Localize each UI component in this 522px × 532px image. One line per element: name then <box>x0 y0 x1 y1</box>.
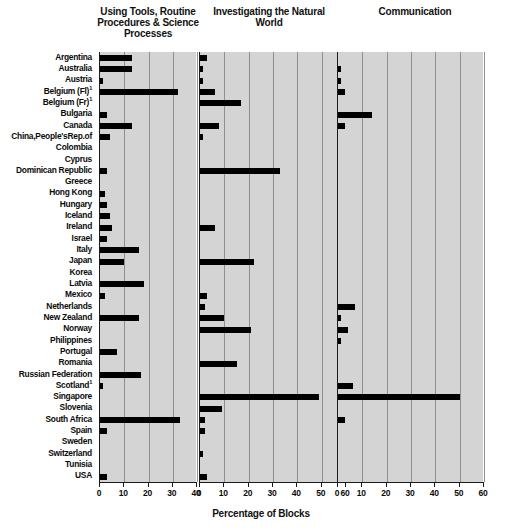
bar <box>338 304 355 310</box>
bar <box>100 474 107 480</box>
country-label: Latvia <box>69 279 92 288</box>
bar <box>338 66 341 72</box>
bar <box>100 66 132 72</box>
plot-panel-using-tools <box>99 52 196 482</box>
axis-tick <box>148 482 149 487</box>
bar <box>338 383 353 389</box>
panel-title-communication: Communication <box>352 6 478 17</box>
x-axis-communication: 0102030405060 <box>337 482 483 508</box>
bar <box>200 304 205 310</box>
axis-tick <box>337 482 338 487</box>
country-label: Belgium (Fl)1 <box>44 87 92 96</box>
bar <box>100 417 180 423</box>
bar <box>200 474 207 480</box>
bar <box>100 383 103 389</box>
bar <box>100 236 107 242</box>
axis-tick-label: 30 <box>405 488 414 498</box>
bar <box>100 123 132 129</box>
bar <box>338 112 372 118</box>
axis-tick-label: 0 <box>97 488 102 498</box>
axis-tick <box>172 482 173 487</box>
bar <box>200 293 207 299</box>
science-content-category-chart: Using Tools, Routine Procedures & Scienc… <box>0 0 522 532</box>
bar <box>200 406 222 412</box>
axis-tick <box>199 482 200 487</box>
country-label: China,People'sRep.of <box>11 132 92 141</box>
bar <box>338 338 341 344</box>
country-label: Singapore <box>53 392 92 401</box>
bar <box>100 134 110 140</box>
axis-tick <box>361 482 362 487</box>
bar <box>200 394 319 400</box>
axis-tick-label: 0 <box>197 488 202 498</box>
x-axis-title: Percentage of Blocks <box>0 508 522 519</box>
axis-tick-label: 20 <box>243 488 252 498</box>
country-label: Greece <box>65 177 92 186</box>
country-label: Ireland <box>66 222 92 231</box>
country-label: Argentina <box>55 53 92 62</box>
bar <box>200 259 254 265</box>
axis-tick <box>248 482 249 487</box>
country-label: South Africa <box>46 415 92 424</box>
gridline <box>197 52 198 482</box>
bar <box>100 428 107 434</box>
bar <box>100 315 139 321</box>
bar <box>200 361 237 367</box>
country-label: Hong Kong <box>49 188 92 197</box>
country-label: USA <box>75 471 92 480</box>
country-label: Philippines <box>50 336 92 345</box>
bar <box>100 213 110 219</box>
country-label: Tunisia <box>65 460 92 469</box>
country-label: Russian Federation <box>19 370 92 379</box>
axis-tick-label: 50 <box>454 488 463 498</box>
bar <box>100 293 105 299</box>
bar <box>100 55 132 61</box>
bar <box>200 225 215 231</box>
bar <box>100 112 107 118</box>
axis-tick-label: 10 <box>119 488 128 498</box>
bar <box>200 78 203 84</box>
bar <box>338 327 348 333</box>
axis-tick-label: 40 <box>430 488 439 498</box>
country-label: Bulgaria <box>60 109 92 118</box>
country-label: Spain <box>70 426 92 435</box>
panel-title-using-tools: Using Tools, Routine Procedures & Scienc… <box>92 6 204 39</box>
axis-tick-label: 60 <box>478 488 487 498</box>
bar <box>100 202 107 208</box>
bar <box>200 315 224 321</box>
bar <box>200 451 203 457</box>
country-label: Austria <box>65 75 92 84</box>
bar <box>200 100 241 106</box>
country-label-column: ArgentinaAustraliaAustriaBelgium (Fl)1Be… <box>0 52 94 482</box>
country-label: Belgium (Fr)1 <box>43 98 92 107</box>
country-label: Norway <box>63 324 92 333</box>
country-label: Korea <box>70 268 93 277</box>
axis-tick <box>123 482 124 487</box>
axis-tick <box>99 482 100 487</box>
bar <box>338 394 460 400</box>
bar <box>200 55 207 61</box>
bar <box>200 417 205 423</box>
country-label: Hungary <box>60 200 92 209</box>
axis-tick-label: 50 <box>316 488 325 498</box>
bar <box>200 428 205 434</box>
country-label: Canada <box>63 121 92 130</box>
bar <box>100 78 103 84</box>
bar <box>100 225 112 231</box>
country-label: Japan <box>69 256 92 265</box>
country-label: New Zealand <box>44 313 92 322</box>
country-label: Iceland <box>65 211 92 220</box>
country-label: Mexico <box>65 290 92 299</box>
country-label: Australia <box>58 64 92 73</box>
country-label: Sweden <box>62 437 92 446</box>
bar <box>338 417 345 423</box>
bar <box>100 191 105 197</box>
axis-tick-label: 30 <box>267 488 276 498</box>
bar <box>338 315 341 321</box>
axis-tick-label: 40 <box>292 488 301 498</box>
axis-tick-label: 10 <box>357 488 366 498</box>
bar <box>200 168 280 174</box>
country-label: Netherlands <box>46 302 92 311</box>
bar <box>100 247 139 253</box>
axis-tick-label: 20 <box>381 488 390 498</box>
